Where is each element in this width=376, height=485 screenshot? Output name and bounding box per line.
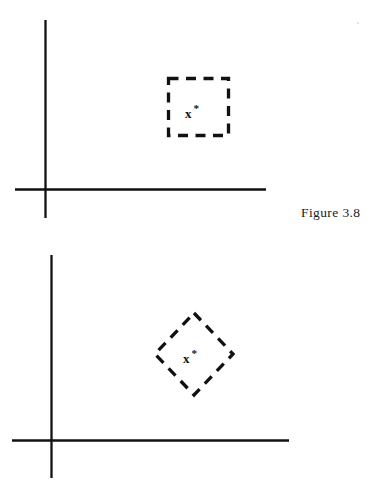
figure-3-8-caption: Figure 3.8	[301, 205, 361, 221]
figure-3-9-drawing: x *	[0, 243, 376, 485]
optimum-label: x	[183, 351, 190, 366]
optimum-point-marker: x *	[183, 347, 198, 366]
optimum-label: x	[185, 106, 192, 121]
scan-speck	[357, 22, 359, 24]
optimum-point-marker: x *	[185, 102, 200, 121]
figure-3-8-panel: x * Figure 3.8	[0, 0, 376, 243]
figure-3-9-panel: x * Figure 3.9	[0, 243, 376, 485]
optimum-superscript-icon: *	[194, 102, 200, 114]
figure-page: x * Figure 3.8 x * Figure 3.9	[0, 0, 376, 485]
optimum-superscript-icon: *	[192, 347, 198, 359]
